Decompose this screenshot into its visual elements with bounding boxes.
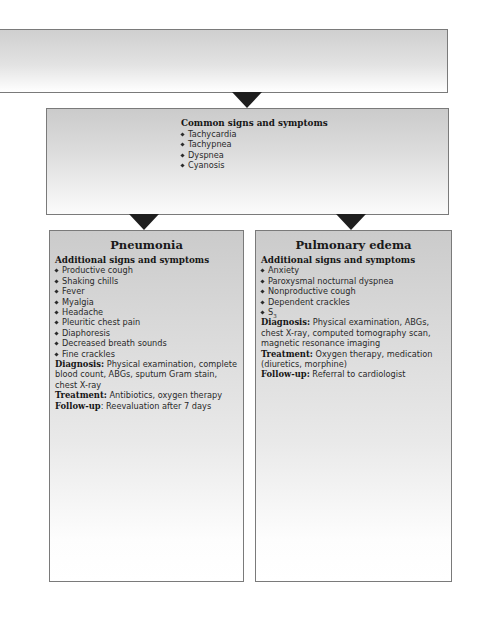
list-item-text: Fever (62, 286, 85, 296)
bullet-diamond-icon (54, 269, 58, 273)
edema-diagnosis: Diagnosis: Physical examination, ABGs, c… (261, 317, 446, 348)
followup-text: Referral to cardiologist (312, 369, 405, 379)
list-item: Cyanosis (181, 160, 328, 171)
pneumonia-title: Pneumonia (55, 238, 238, 252)
list-item-text: Anxiety (268, 265, 299, 275)
edema-signs-list: Anxiety Paroxysmal nocturnal dyspnea Non… (261, 265, 446, 317)
pulmonary-edema-box: Pulmonary edema Additional signs and sym… (255, 230, 452, 582)
common-signs-heading: Common signs and symptoms (181, 118, 328, 129)
list-item-text: Shaking chills (62, 276, 118, 286)
bullet-diamond-icon (260, 310, 264, 314)
bullet-diamond-icon (54, 331, 58, 335)
list-item: Anxiety (261, 265, 446, 275)
bullet-diamond-icon (260, 290, 264, 294)
followup-label: Follow-up: (261, 369, 310, 379)
bullet-diamond-icon (54, 290, 58, 294)
pneumonia-diagnosis: Diagnosis: Physical examination, complet… (55, 359, 238, 390)
bullet-diamond-icon (180, 143, 184, 147)
bullet-diamond-icon (180, 164, 184, 168)
common-signs-list: Tachycardia Tachypnea Dyspnea Cyanosis (181, 129, 328, 171)
pneumonia-subheading: Additional signs and symptoms (55, 255, 238, 265)
list-item-text: Decreased breath sounds (62, 338, 167, 348)
bullet-diamond-icon (54, 342, 58, 346)
list-item: Nonproductive cough (261, 286, 446, 296)
list-item: Dyspnea (181, 150, 328, 161)
bullet-diamond-icon (54, 279, 58, 283)
list-item-text: Tachypnea (188, 139, 232, 149)
list-item-text: Pleuritic chest pain (62, 317, 140, 327)
bullet-diamond-icon (180, 132, 184, 136)
edema-followup: Follow-up: Referral to cardiologist (261, 369, 446, 379)
list-item-text: Tachycardia (188, 129, 236, 139)
list-item: S3 (261, 307, 446, 317)
list-item: Decreased breath sounds (55, 338, 238, 348)
edema-subheading: Additional signs and symptoms (261, 255, 446, 265)
list-item-text: Myalgia (62, 297, 94, 307)
list-item-text: Fine crackles (62, 349, 115, 359)
pneumonia-signs-list: Productive cough Shaking chills Fever My… (55, 265, 238, 359)
list-item: Myalgia (55, 297, 238, 307)
list-item: Dependent crackles (261, 297, 446, 307)
bullet-diamond-icon (260, 300, 264, 304)
treatment-label: Treatment: (261, 349, 313, 359)
subscript-text: 3 (273, 313, 277, 319)
treatment-label: Treatment: (55, 390, 107, 400)
list-item: Paroxysmal nocturnal dyspnea (261, 276, 446, 286)
list-item-text: Dyspnea (188, 150, 224, 160)
followup-text: : Reevaluation after 7 days (101, 401, 212, 411)
list-item: Productive cough (55, 265, 238, 275)
pneumonia-treatment: Treatment: Antibiotics, oxygen therapy (55, 390, 238, 400)
list-item: Fine crackles (55, 349, 238, 359)
bullet-diamond-icon (54, 310, 58, 314)
treatment-text: Antibiotics, oxygen therapy (110, 390, 223, 400)
list-item-text: Productive cough (62, 265, 133, 275)
list-item: Headache (55, 307, 238, 317)
pneumonia-box: Pneumonia Additional signs and symptoms … (49, 230, 244, 582)
list-item: Tachycardia (181, 129, 328, 140)
list-item: Tachypnea (181, 139, 328, 150)
arrow-down-icon (129, 214, 159, 230)
list-item-text: Dependent crackles (268, 297, 350, 307)
pneumonia-followup: Follow-up: Reevaluation after 7 days (55, 401, 238, 411)
bullet-diamond-icon (260, 269, 264, 273)
list-item-text: Diaphoresis (62, 328, 110, 338)
edema-treatment: Treatment: Oxygen therapy, medication (d… (261, 349, 446, 370)
bullet-diamond-icon (260, 279, 264, 283)
list-item: Pleuritic chest pain (55, 317, 238, 327)
list-item-text: Cyanosis (188, 160, 225, 170)
arrow-down-icon (336, 214, 366, 230)
diagnosis-label: Diagnosis: (261, 317, 310, 327)
list-item-text: Headache (62, 307, 103, 317)
bullet-diamond-icon (54, 352, 58, 356)
common-signs-box: Common signs and symptoms Tachycardia Ta… (46, 108, 449, 215)
top-condition-box (0, 29, 448, 93)
followup-label: Follow-up (55, 401, 101, 411)
diagnosis-label: Diagnosis: (55, 359, 104, 369)
bullet-diamond-icon (54, 300, 58, 304)
edema-title: Pulmonary edema (261, 238, 446, 252)
list-item: Diaphoresis (55, 328, 238, 338)
list-item-text: Paroxysmal nocturnal dyspnea (268, 276, 394, 286)
list-item: Fever (55, 286, 238, 296)
arrow-down-icon (232, 92, 262, 108)
list-item: Shaking chills (55, 276, 238, 286)
list-item-text: Nonproductive cough (268, 286, 356, 296)
bullet-diamond-icon (54, 321, 58, 325)
bullet-diamond-icon (180, 153, 184, 157)
